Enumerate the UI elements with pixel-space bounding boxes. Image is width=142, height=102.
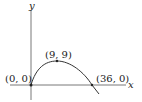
graph: y x (0, 0) (9, 9) (36, 0) <box>0 0 142 102</box>
point-root <box>91 84 93 86</box>
curve <box>31 61 99 94</box>
point-label-root: (36, 0) <box>96 73 129 84</box>
point-peak <box>56 60 58 62</box>
point-label-origin: (0, 0) <box>5 73 32 84</box>
y-axis-label: y <box>28 0 35 11</box>
point-label-peak: (9, 9) <box>45 49 72 60</box>
